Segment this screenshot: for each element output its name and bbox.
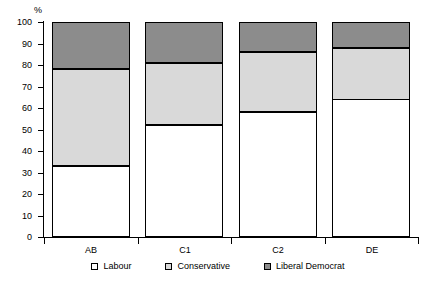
y-axis-tick-label: 90: [6, 40, 32, 49]
white-square-icon: [91, 263, 98, 270]
legend-entry-conservative[interactable]: Conservative: [165, 261, 230, 271]
y-axis-tick: [38, 22, 43, 23]
x-axis-label-c1: C1: [138, 245, 232, 255]
bar-segment-ab-liberal-democrat: [52, 22, 130, 69]
x-axis-label-de: DE: [325, 245, 419, 255]
x-axis-label-ab: AB: [44, 245, 138, 255]
bar-segment-c2-liberal-democrat: [239, 22, 317, 52]
y-axis-tick-label: 10: [6, 212, 32, 221]
x-axis-tick: [418, 238, 419, 244]
y-axis-tick: [38, 237, 43, 238]
legend-label: Conservative: [177, 261, 230, 271]
x-axis-tick: [44, 238, 45, 244]
bar-segment-c1-liberal-democrat: [145, 22, 223, 63]
chart-legend: LabourConservativeLiberal Democrat: [0, 261, 436, 271]
bar-segment-c1-labour: [145, 125, 223, 237]
y-axis-tick: [38, 173, 43, 174]
bar-segment-ab-conservative: [52, 69, 130, 166]
bar-segment-c2-conservative: [239, 52, 317, 112]
bar-group-ab: [52, 22, 130, 237]
y-axis-tick: [38, 194, 43, 195]
legend-label: Labour: [103, 261, 131, 271]
bar-segment-c1-conservative: [145, 63, 223, 125]
bar-segment-de-conservative: [332, 48, 410, 100]
bar-group-de: [332, 22, 410, 237]
y-axis-tick-label: 30: [6, 169, 32, 178]
bar-segment-c2-labour: [239, 112, 317, 237]
y-axis-tick-label: 60: [6, 104, 32, 113]
y-axis-tick-label: 0: [6, 233, 32, 242]
stacked-bar-chart: % 0102030405060708090100 ABC1C2DE Labour…: [0, 0, 436, 288]
plot-area: [44, 22, 418, 237]
light-grey-square-icon: [165, 263, 172, 270]
x-axis-tick: [231, 238, 232, 244]
y-axis-tick-label: 70: [6, 83, 32, 92]
y-axis-tick-label: 80: [6, 61, 32, 70]
y-axis-tick-label: 20: [6, 190, 32, 199]
y-axis-tick: [38, 108, 43, 109]
legend-entry-liberal-democrat[interactable]: Liberal Democrat: [264, 261, 345, 271]
y-axis-tick-label: 40: [6, 147, 32, 156]
y-axis-tick: [38, 130, 43, 131]
y-axis-tick: [38, 44, 43, 45]
y-axis-tick-label: 50: [6, 126, 32, 135]
y-axis-unit-label: %: [34, 5, 42, 15]
x-axis-label-c2: C2: [231, 245, 325, 255]
y-axis-tick: [38, 65, 43, 66]
bar-group-c2: [239, 22, 317, 237]
y-axis-tick: [38, 87, 43, 88]
y-axis-tick-label: 100: [6, 18, 32, 27]
dark-grey-square-icon: [264, 263, 271, 270]
legend-entry-labour[interactable]: Labour: [91, 261, 131, 271]
legend-label: Liberal Democrat: [276, 261, 345, 271]
bar-segment-de-labour: [332, 99, 410, 237]
y-axis-tick: [38, 216, 43, 217]
x-axis-tick: [138, 238, 139, 244]
x-axis-tick: [325, 238, 326, 244]
bar-segment-de-liberal-democrat: [332, 22, 410, 48]
bar-group-c1: [145, 22, 223, 237]
y-axis-tick: [38, 151, 43, 152]
bar-segment-ab-labour: [52, 166, 130, 237]
